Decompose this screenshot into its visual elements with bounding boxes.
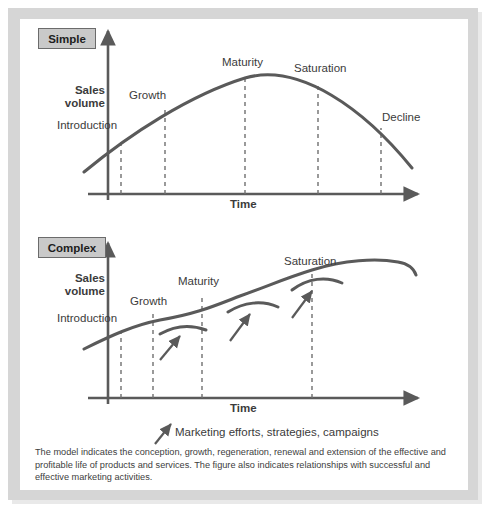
chart-complex xyxy=(84,243,418,404)
simple-y-axis-label: Sales volume xyxy=(35,84,105,110)
complex-y-axis-label-line1: Sales xyxy=(75,272,105,284)
simple-stage-label-introduction: Introduction xyxy=(57,119,117,132)
complex-y-axis-label: Sales volume xyxy=(35,272,105,298)
complex-relaunch-arc-3 xyxy=(292,279,342,290)
complex-stage-label-growth: Growth xyxy=(130,295,167,308)
complex-stage-label-introduction: Introduction xyxy=(57,312,117,325)
simple-stage-label-maturity: Maturity xyxy=(222,56,263,69)
simple-y-axis-label-line1: Sales xyxy=(75,84,105,96)
complex-stage-label-maturity: Maturity xyxy=(178,275,219,288)
complex-x-axis-label: Time xyxy=(230,402,257,415)
complex-relaunch-arc-1 xyxy=(160,327,206,334)
panel-tag-simple: Simple xyxy=(38,28,96,49)
complex-effort-arrow-1 xyxy=(160,336,180,360)
simple-stage-label-decline: Decline xyxy=(382,111,420,124)
simple-x-axis-label: Time xyxy=(230,198,257,211)
complex-relaunch-arc-2 xyxy=(228,303,278,312)
legend-label: Marketing efforts, strategies, campaigns xyxy=(175,426,379,439)
figure-caption: The model indicates the conception, grow… xyxy=(35,446,449,484)
simple-stage-label-saturation: Saturation xyxy=(294,62,346,75)
simple-y-axis-label-line2: volume xyxy=(65,97,105,109)
legend-arrow-icon xyxy=(155,424,171,444)
figure-graphics xyxy=(0,0,493,521)
complex-stage-label-saturation: Saturation xyxy=(284,255,336,268)
complex-y-axis-label-line2: volume xyxy=(65,285,105,297)
simple-stage-label-growth: Growth xyxy=(129,89,166,102)
panel-tag-complex: Complex xyxy=(38,237,106,258)
figure-root: Simple Sales volume Introduction Growth … xyxy=(0,0,493,521)
complex-effort-arrow-2 xyxy=(230,314,250,341)
complex-effort-arrow-3 xyxy=(292,291,312,318)
